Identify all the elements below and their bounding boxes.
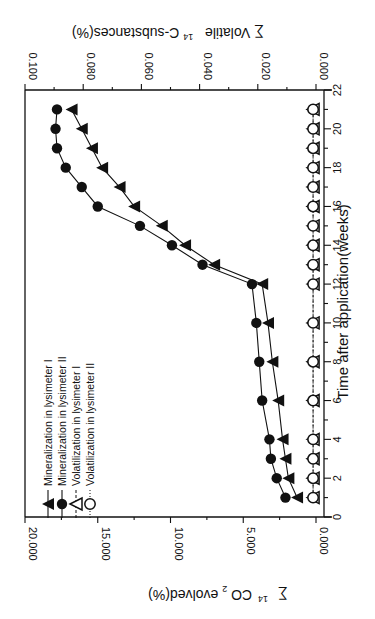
chart: 02468101214161820220.0005.00010.00015.00… [0,0,375,619]
data-point-filled-circle [77,182,87,192]
time-tick-label: 18 [331,162,343,174]
data-point-open-circle [308,318,318,328]
right-axis-tick-label: 0.080 [85,52,97,80]
data-point-open-circle [308,162,318,172]
data-point-open-circle [308,143,318,153]
data-point-filled-triangle [291,492,303,504]
data-point-filled-circle [61,162,71,172]
data-point-open-circle [308,182,318,192]
legend-marker-open-circle [85,499,95,509]
data-point-filled-circle [280,492,290,502]
time-tick-label: 20 [331,123,343,135]
data-point-open-circle [308,201,318,211]
legend: Mineralization in lysimeter IMineralizat… [42,356,96,518]
legend-label: Volatilization in lysimeter II [84,363,96,486]
data-point-open-circle [308,492,318,502]
data-point-open-circle [308,240,318,250]
data-point-open-circle [308,279,318,289]
legend-entry: Volatilization in lysimeter I [70,366,82,518]
data-point-filled-circle [266,454,276,464]
data-point-filled-circle [52,143,62,153]
data-point-filled-circle [167,240,177,250]
data-point-filled-circle [272,473,282,483]
data-point-filled-circle [254,357,264,367]
left-axis-tick-label: 0.000 [318,527,330,555]
x-axis-label: Time after application(weeks) [334,204,351,399]
time-tick-label: 4 [331,436,343,442]
data-point-filled-triangle [256,278,268,290]
data-point-filled-circle [50,124,60,134]
right-axis-tick-label: 0.040 [202,52,214,80]
data-point-filled-triangle [86,142,98,154]
data-point-filled-circle [251,318,261,328]
left-axis-tick-label: 5.000 [245,527,257,555]
data-point-filled-circle [93,201,103,211]
data-point-filled-triangle [66,103,78,115]
series-volatilization-in-lysimeter-ii [308,104,318,503]
left-axis-tick-label: 20.000 [27,527,39,561]
data-point-open-circle [308,259,318,269]
legend-entry: Mineralization in lysimeter I [42,359,54,518]
legend-marker-open-triangle [70,498,82,510]
right-axis-tick-label: 0.100 [27,52,39,80]
right-y-axis-label: ∑ Volatile 14 C-substances(%) [72,25,264,47]
data-point-open-circle [308,454,318,464]
data-point-open-circle [308,473,318,483]
data-point-filled-circle [257,395,267,405]
left-axis-tick-label: 15.000 [100,527,112,561]
data-point-open-circle [308,357,318,367]
right-axis-tick-label: 0.060 [143,52,155,80]
data-point-open-circle [308,434,318,444]
data-point-filled-circle [197,259,207,269]
data-point-open-circle [308,395,318,405]
data-point-filled-triangle [128,200,140,212]
data-point-filled-circle [264,434,274,444]
data-point-filled-circle [52,104,62,114]
data-point-open-circle [308,221,318,231]
time-tick-label: 0 [331,514,343,520]
left-y-axis-label: ∑ 14 CO 2 evolved(%) [148,583,288,609]
legend-label: Mineralization in lysimeter II [56,356,68,486]
data-point-filled-circle [247,279,257,289]
time-tick-label: 22 [331,84,343,96]
data-point-filled-triangle [76,123,88,135]
left-axis-tick-label: 10.000 [173,527,185,561]
data-point-open-circle [308,104,318,114]
data-point-filled-triangle [96,162,108,174]
legend-marker-filled-circle [57,499,67,509]
legend-entry: Mineralization in lysimeter II [56,356,68,518]
legend-label: Mineralization in lysimeter I [42,359,54,486]
right-axis-tick-label: 0.020 [260,52,272,80]
data-point-filled-triangle [279,453,291,465]
time-tick-label: 2 [331,475,343,481]
legend-label: Volatilization in lysimeter I [70,366,82,486]
right-axis-tick-label: 0.000 [318,52,330,80]
data-point-filled-triangle [156,220,168,232]
data-point-open-circle [308,124,318,134]
legend-entry: Volatilization in lysimeter II [84,363,96,518]
data-point-filled-circle [135,221,145,231]
data-point-filled-triangle [282,472,294,484]
